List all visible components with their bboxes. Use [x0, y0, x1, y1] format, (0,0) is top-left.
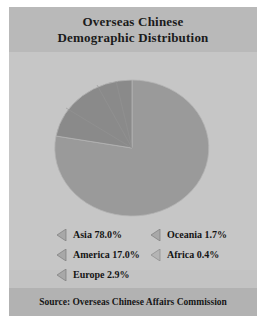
- source-caption: Source: Overseas Chinese Affairs Commiss…: [39, 296, 227, 308]
- triangle-left-icon: [57, 269, 67, 281]
- legend-item-oceania[interactable]: Oceania 1.7%: [151, 225, 227, 244]
- legend-item-america[interactable]: America 17.0%: [57, 245, 140, 264]
- legend-label-oceania: Oceania 1.7%: [167, 229, 227, 241]
- chart-panel: Overseas Chinese Demographic Distributio…: [9, 7, 257, 316]
- page-title-line-1: Overseas Chinese: [82, 14, 183, 30]
- legend-label-asia: Asia 78.0%: [73, 229, 122, 241]
- triangle-left-icon: [151, 249, 161, 261]
- legend-label-america: America 17.0%: [73, 249, 140, 261]
- legend-column-right: Oceania 1.7% Africa 0.4%: [151, 225, 227, 265]
- legend-item-africa[interactable]: Africa 0.4%: [151, 245, 227, 264]
- legend-item-europe[interactable]: Europe 2.9%: [57, 265, 140, 284]
- triangle-left-icon: [151, 229, 161, 241]
- legend-column-left: Asia 78.0% America 17.0% Europe 2.9%: [57, 225, 140, 285]
- chart-legend: Asia 78.0% America 17.0% Europe 2.9%: [9, 225, 257, 288]
- chart-footer: Source: Overseas Chinese Affairs Commiss…: [9, 288, 257, 316]
- pie-slice-minor-group: [56, 80, 132, 148]
- triangle-left-icon: [57, 249, 67, 261]
- page-title-line-2: Demographic Distribution: [57, 30, 208, 46]
- chart-figure: Overseas Chinese Demographic Distributio…: [0, 0, 266, 332]
- triangle-left-icon: [57, 229, 67, 241]
- chart-header: Overseas Chinese Demographic Distributio…: [9, 7, 257, 52]
- legend-label-africa: Africa 0.4%: [167, 249, 219, 261]
- legend-item-asia[interactable]: Asia 78.0%: [57, 225, 140, 244]
- legend-label-europe: Europe 2.9%: [73, 269, 130, 281]
